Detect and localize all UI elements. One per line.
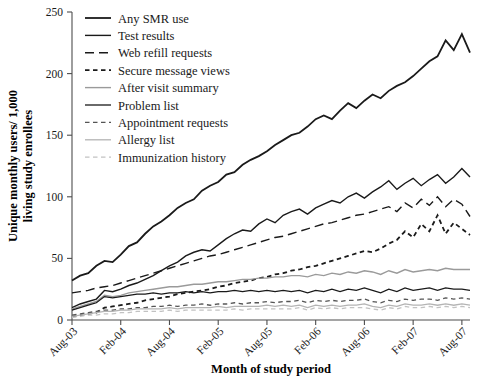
x-tick-label: Feb-06 [292, 325, 324, 357]
y-tick-label: 50 [52, 252, 64, 264]
legend-label-7: Allergy list [118, 133, 175, 147]
legend-label-2: Web refill requests [118, 46, 212, 60]
series-line-1 [72, 168, 470, 307]
legend-label-3: Secure message views [118, 64, 230, 78]
series-line-5 [72, 288, 470, 310]
y-tick-label: 200 [46, 68, 64, 80]
series-line-4 [72, 268, 470, 309]
x-tick-label: Aug-06 [338, 325, 372, 359]
x-tick-label: Aug-03 [46, 325, 80, 359]
legend-label-4: After visit summary [118, 81, 219, 95]
x-tick-label: Aug-07 [436, 325, 470, 359]
y-axis-title-line1: Unique monthly users/ 1,000 [6, 90, 20, 242]
line-chart: 050100150200250Aug-03Feb-04Aug-04Feb-05A… [0, 0, 493, 384]
y-axis-title-line2: living study enrollees [21, 110, 35, 222]
x-tick-label: Feb-04 [97, 325, 129, 357]
legend-label-5: Problem list [118, 99, 179, 113]
y-tick-label: 100 [46, 191, 64, 203]
x-tick-label: Aug-05 [241, 325, 275, 359]
series-line-3 [72, 215, 470, 316]
x-tick-label: Feb-07 [389, 325, 421, 357]
legend-label-1: Test results [118, 29, 175, 43]
y-tick-label: 150 [46, 129, 64, 141]
y-tick-label: 250 [46, 6, 64, 18]
legend-label-6: Appointment requests [118, 116, 228, 130]
x-tick-label: Aug-04 [144, 325, 178, 359]
chart-legend: Any SMR useTest resultsWeb refill reques… [85, 12, 230, 165]
chart-container: 050100150200250Aug-03Feb-04Aug-04Feb-05A… [0, 0, 493, 384]
y-tick-label: 0 [57, 314, 63, 326]
legend-label-8: Immunization history [118, 151, 227, 165]
x-tick-label: Feb-05 [194, 325, 226, 357]
x-axis-title: Month of study period [211, 362, 331, 376]
series-line-7 [72, 304, 470, 316]
legend-label-0: Any SMR use [118, 12, 189, 26]
